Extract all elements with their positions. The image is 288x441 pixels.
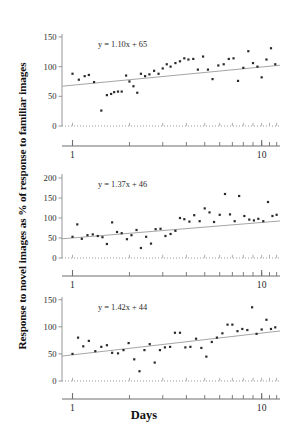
y-tick-label: 0: [52, 121, 56, 131]
data-point: [265, 58, 267, 60]
data-point: [265, 319, 267, 321]
data-point: [138, 370, 140, 372]
data-point: [253, 219, 255, 221]
data-point: [144, 75, 146, 77]
data-point: [195, 338, 197, 340]
y-tick-label: 150: [44, 295, 57, 305]
data-point: [121, 90, 123, 92]
data-point: [241, 328, 243, 330]
data-point: [257, 218, 259, 220]
data-point: [174, 230, 176, 232]
y-tick-label: 50: [48, 91, 57, 101]
y-tick-label: 100: [44, 213, 57, 223]
data-point: [211, 341, 213, 343]
data-point: [140, 73, 142, 75]
data-point: [155, 228, 157, 230]
data-point: [153, 70, 155, 72]
data-point: [197, 69, 199, 71]
data-point: [110, 93, 112, 95]
y-tick-label: 0: [52, 253, 56, 263]
data-point: [216, 337, 218, 339]
data-point: [122, 349, 124, 351]
data-point: [82, 345, 84, 347]
data-point: [217, 64, 219, 66]
data-point: [219, 214, 221, 216]
data-point: [189, 346, 191, 348]
data-point: [183, 218, 185, 220]
data-point: [247, 50, 249, 52]
data-point: [179, 60, 181, 62]
data-point: [106, 344, 108, 346]
data-point: [179, 332, 181, 334]
data-point: [94, 350, 96, 352]
data-point: [204, 207, 206, 209]
data-point: [93, 81, 95, 83]
data-point: [159, 349, 161, 351]
data-point: [261, 328, 263, 330]
data-point: [113, 91, 115, 93]
x-tick-label: 1: [70, 279, 75, 290]
data-point: [106, 94, 108, 96]
data-point: [238, 195, 240, 197]
data-point: [246, 329, 248, 331]
data-point: [164, 235, 166, 237]
data-point: [256, 66, 258, 68]
data-point: [81, 238, 83, 240]
data-point: [145, 236, 147, 238]
data-point: [205, 356, 207, 358]
y-tick-label: 150: [44, 32, 57, 42]
regression-line: [62, 221, 280, 239]
data-point: [276, 214, 278, 216]
data-point: [71, 236, 73, 238]
y-tick-label: 0: [52, 376, 56, 386]
data-point: [154, 361, 156, 363]
data-point: [236, 330, 238, 332]
data-point: [226, 324, 228, 326]
scatter-plot-2: 050100150200y = 1.37x + 46110: [34, 170, 284, 290]
data-point: [126, 238, 128, 240]
data-point: [71, 73, 73, 75]
regression-line: [62, 331, 280, 356]
data-point: [92, 233, 94, 235]
data-point: [100, 346, 102, 348]
y-tick-label: 100: [44, 62, 57, 72]
data-point: [88, 340, 90, 342]
x-tick-label: 10: [257, 149, 267, 160]
regression-equation: y = 1.37x + 46: [98, 180, 147, 189]
data-point: [270, 328, 272, 330]
data-point: [234, 220, 236, 222]
data-point: [231, 324, 233, 326]
data-point: [270, 47, 272, 49]
data-point: [125, 74, 127, 76]
panel-familiar-2: 050100150200y = 1.37x + 46110: [34, 170, 284, 290]
y-axis-label: Response to novel images as % of respons…: [16, 0, 28, 416]
data-point: [255, 333, 257, 335]
data-point: [100, 109, 102, 111]
data-point: [179, 217, 181, 219]
data-point: [199, 220, 201, 222]
data-point: [159, 228, 161, 230]
figure-root: Response to novel images as % of respons…: [0, 0, 288, 441]
y-tick-label: 50: [48, 349, 57, 359]
data-point: [228, 58, 230, 60]
y-tick-label: 100: [44, 322, 57, 332]
data-point: [84, 75, 86, 77]
data-point: [174, 62, 176, 64]
y-tick-label: 50: [48, 233, 57, 243]
data-point: [97, 235, 99, 237]
data-point: [77, 337, 79, 339]
data-point: [133, 358, 135, 360]
y-tick-label: 150: [44, 193, 57, 203]
data-point: [169, 233, 171, 235]
data-point: [143, 349, 145, 351]
data-point: [251, 306, 253, 308]
data-point: [157, 73, 159, 75]
data-point: [242, 67, 244, 69]
data-point: [274, 326, 276, 328]
data-point: [149, 343, 151, 345]
data-point: [252, 62, 254, 64]
data-point: [164, 346, 166, 348]
data-point: [130, 234, 132, 236]
data-point: [188, 221, 190, 223]
data-point: [193, 214, 195, 216]
